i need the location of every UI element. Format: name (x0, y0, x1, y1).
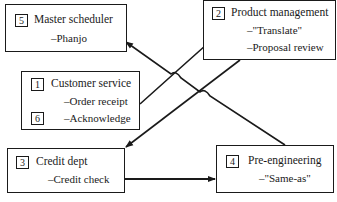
node-title: Product management (231, 6, 328, 18)
node-title: Pre-engineering (248, 154, 321, 166)
node-customer-service: 1 Customer service –Order receipt 6 –Ack… (21, 71, 140, 130)
node-number-badge: 3 (16, 156, 29, 169)
node-number-badge-secondary: 6 (31, 112, 44, 125)
node-number-badge: 2 (212, 7, 225, 20)
node-number-badge: 5 (15, 14, 28, 27)
node-item: –"Same-as" (259, 172, 311, 184)
node-master-scheduler: 5 Master scheduler –Phanjo (5, 4, 127, 52)
node-title: Credit dept (36, 155, 87, 167)
node-title: Customer service (51, 77, 131, 89)
node-item: –Acknowledge (64, 112, 131, 124)
node-number-badge: 4 (226, 155, 239, 168)
node-item: –Credit check (48, 173, 109, 185)
node-title: Master scheduler (34, 13, 113, 25)
node-pre-engineering: 4 Pre-engineering –"Same-as" (216, 145, 334, 193)
node-item: –Phanjo (51, 32, 87, 44)
node-number-badge: 1 (31, 78, 44, 91)
node-item: –"Translate" (247, 24, 302, 36)
node-item: –Proposal review (247, 41, 324, 53)
node-item: –Order receipt (64, 95, 128, 107)
node-product-management: 2 Product management –"Translate" –Propo… (203, 0, 336, 60)
node-credit-dept: 3 Credit dept –Credit check (7, 148, 125, 193)
